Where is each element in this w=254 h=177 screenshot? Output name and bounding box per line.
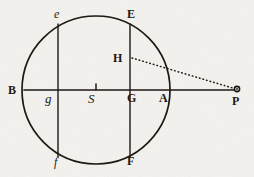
label-F: F: [127, 155, 135, 167]
label-S: S: [88, 92, 95, 105]
label-f: f: [54, 156, 57, 168]
figure-canvas: [0, 0, 254, 177]
label-e: e: [54, 8, 59, 20]
label-G: G: [127, 92, 137, 104]
label-B: B: [8, 84, 16, 96]
geometry-figure: B g S G A P e E H f F: [0, 0, 254, 177]
label-E: E: [127, 8, 135, 20]
label-H: H: [113, 52, 123, 64]
label-P: P: [232, 95, 240, 107]
point-marker-P-core: [236, 88, 238, 90]
label-A: A: [159, 92, 168, 104]
label-g: g: [45, 92, 52, 105]
dotted-line-HP: [132, 58, 236, 89]
